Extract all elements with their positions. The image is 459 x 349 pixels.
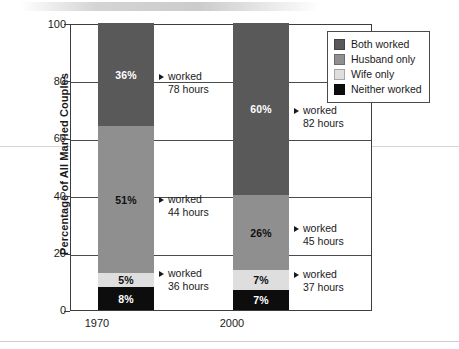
y-tick-label-100: 100: [26, 19, 66, 30]
annotation-1970-husband-line1: worked: [168, 193, 202, 206]
bar-2000-label-neither: 7%: [253, 294, 269, 306]
triangle-right-icon: [294, 272, 299, 278]
annotation-1970-wife-line1: worked: [168, 267, 202, 280]
bar-2000-label-wife: 7%: [253, 274, 269, 286]
annotation-1970-both-line2: 78 hours: [159, 83, 209, 96]
bar-1970-segment-husband-only[interactable]: 51%: [98, 126, 154, 272]
y-tick-label-60: 60: [26, 133, 66, 144]
legend-swatch-neither-worked: [334, 84, 345, 95]
scan-artifact-line-bottom: [0, 341, 459, 342]
bar-2000-segment-neither-worked[interactable]: 7%: [233, 290, 289, 310]
triangle-right-icon: [159, 271, 164, 277]
bar-2000-segment-husband-only[interactable]: 26%: [233, 195, 289, 270]
y-axis-title: Percentage of All Married Couples: [58, 24, 70, 304]
triangle-right-icon: [159, 197, 164, 203]
annotation-1970-wife-line2: 36 hours: [159, 280, 209, 293]
legend-item-both-worked[interactable]: Both worked: [334, 37, 422, 52]
bar-1970-label-wife: 5%: [118, 274, 134, 286]
legend-swatch-husband-only: [334, 54, 345, 65]
y-tick-label-0: 0: [26, 305, 66, 316]
bar-1970-segment-both-worked[interactable]: 36%: [98, 23, 154, 126]
annotation-2000-wife-only: worked 37 hours: [294, 268, 344, 294]
stacked-bar-chart-figure: Percentage of All Married Couples 100 80…: [0, 0, 459, 349]
triangle-right-icon: [159, 74, 164, 80]
legend-swatch-wife-only: [334, 69, 345, 80]
annotation-2000-husband-line1: worked: [303, 222, 337, 235]
legend-label-wife-only: Wife only: [351, 69, 394, 80]
annotation-2000-both-line2: 82 hours: [294, 117, 344, 130]
annotation-1970-husband-only: worked 44 hours: [159, 193, 209, 219]
bar-2000-segment-both-worked[interactable]: 60%: [233, 23, 289, 195]
legend-swatch-both-worked: [334, 39, 345, 50]
annotation-2000-wife-line1: worked: [303, 268, 337, 281]
legend-item-husband-only[interactable]: Husband only: [334, 52, 422, 67]
triangle-right-icon: [294, 226, 299, 232]
annotation-2000-both-worked: worked 82 hours: [294, 104, 344, 130]
bar-2000-label-both: 60%: [250, 103, 272, 115]
annotation-1970-wife-only: worked 36 hours: [159, 267, 209, 293]
annotation-2000-both-line1: worked: [303, 104, 337, 117]
legend-label-husband-only: Husband only: [351, 54, 415, 65]
legend-label-neither-worked: Neither worked: [351, 84, 422, 95]
annotation-2000-wife-line2: 37 hours: [294, 281, 344, 294]
annotation-1970-both-worked: worked 78 hours: [159, 70, 209, 96]
legend-label-both-worked: Both worked: [351, 39, 409, 50]
y-tick-label-40: 40: [26, 191, 66, 202]
scan-smudge-top: [20, 2, 320, 11]
legend-item-neither-worked[interactable]: Neither worked: [334, 82, 422, 97]
y-tick-label-20: 20: [26, 248, 66, 259]
chart-legend: Both worked Husband only Wife only Neith…: [327, 31, 430, 103]
y-tick-mark-0: [64, 311, 70, 312]
bar-1970-segment-neither-worked[interactable]: 8%: [98, 287, 154, 310]
bar-1970-label-husband: 51%: [115, 194, 137, 206]
x-tick-label-1970: 1970: [52, 317, 142, 329]
annotation-2000-husband-only: worked 45 hours: [294, 222, 344, 248]
legend-item-wife-only[interactable]: Wife only: [334, 67, 422, 82]
y-tick-label-80: 80: [26, 76, 66, 87]
bar-1970-segment-wife-only[interactable]: 5%: [98, 273, 154, 287]
annotation-2000-husband-line2: 45 hours: [294, 235, 344, 248]
bar-2000-label-husband: 26%: [250, 227, 272, 239]
annotation-1970-husband-line2: 44 hours: [159, 206, 209, 219]
bar-1970-label-neither: 8%: [118, 293, 134, 305]
bar-1970-label-both: 36%: [115, 69, 137, 81]
annotation-1970-both-line1: worked: [168, 70, 202, 83]
bar-2000-segment-wife-only[interactable]: 7%: [233, 270, 289, 290]
x-tick-label-2000: 2000: [187, 317, 277, 329]
triangle-right-icon: [294, 108, 299, 114]
